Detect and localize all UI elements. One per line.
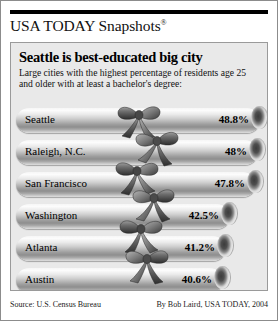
scroll-end-cap-icon xyxy=(221,202,238,225)
bar-category-label: Seattle xyxy=(25,113,55,126)
table-row: Seattle 48.8% xyxy=(11,105,268,136)
chart-panel: Seattle is best-educated big city Large … xyxy=(10,42,268,291)
scroll-end-cap-icon xyxy=(214,266,231,289)
bar-category-label: Washington xyxy=(25,209,77,222)
table-row: San Francisco 47.8% xyxy=(11,169,268,200)
chart-title: Seattle is best-educated big city xyxy=(19,49,267,65)
bar-value-label: 48% xyxy=(225,145,247,158)
bar-value-label: 42.5% xyxy=(189,209,219,222)
masthead: USA TODAY Snapshots® xyxy=(10,10,268,34)
table-row: Washington 42.5% xyxy=(11,201,268,232)
bar-category-label: Raleigh, N.C. xyxy=(25,145,86,158)
bar-category-label: Austin xyxy=(25,273,54,286)
bar-value-label: 40.6% xyxy=(182,273,212,286)
chart-bars: Seattle 48.8% Raleigh, N.C. 48% San Fran… xyxy=(11,105,268,291)
chart-subtitle: Large cities with the highest percentage… xyxy=(19,68,261,90)
masthead-rule xyxy=(10,10,268,14)
scroll-end-cap-icon xyxy=(249,138,266,161)
bar-category-label: Atlanta xyxy=(25,241,57,254)
footer: Source: U.S. Census Bureau By Bob Laird,… xyxy=(10,300,268,312)
credit-label: By Bob Laird, USA TODAY, 2004 xyxy=(157,300,269,310)
masthead-brand: USA TODAY Snapshots® xyxy=(10,17,268,34)
masthead-brand-text: USA TODAY Snapshots xyxy=(10,17,161,34)
bar-value-label: 41.2% xyxy=(185,241,215,254)
registered-trademark-icon: ® xyxy=(161,18,167,27)
table-row: Atlanta 41.2% xyxy=(11,233,268,264)
scroll-end-cap-icon xyxy=(251,106,268,129)
table-row: Raleigh, N.C. 48% xyxy=(11,137,268,168)
table-row: Austin 40.6% xyxy=(11,265,268,291)
scroll-end-cap-icon xyxy=(217,234,234,257)
bar-value-label: 48.8% xyxy=(219,113,249,126)
usa-today-snapshot-graphic: USA TODAY Snapshots® Seattle is best-edu… xyxy=(0,0,278,321)
scroll-end-cap-icon xyxy=(247,170,264,193)
source-label: Source: U.S. Census Bureau xyxy=(10,300,101,310)
bar-category-label: San Francisco xyxy=(25,177,87,190)
bar-value-label: 47.8% xyxy=(215,177,245,190)
